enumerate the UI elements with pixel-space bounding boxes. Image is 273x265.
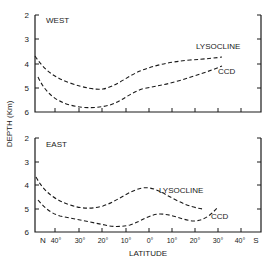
east-lysocline-label: LYSOCLINE	[159, 186, 203, 195]
east-ccd-curve	[38, 200, 218, 227]
ytick-3-east: 3	[25, 158, 30, 167]
west-lysocline-curve	[35, 56, 222, 89]
panel-west-frame	[35, 15, 261, 112]
xtick-20S: 20°	[190, 237, 201, 244]
ytick-5-west: 5	[25, 84, 30, 93]
panel-west-title: WEST	[46, 16, 69, 25]
ytick-4-east: 4	[25, 181, 30, 190]
panel-east-yticks	[35, 138, 261, 209]
xtick-10N: 10°	[121, 237, 132, 244]
ytick-2-east: 2	[25, 134, 30, 143]
figure: 2 3 4 5 6 WEST LYSOCLINE CCD DEPTH (Km)	[0, 0, 273, 265]
panel-west: 2 3 4 5 6 WEST LYSOCLINE CCD	[25, 11, 261, 117]
west-lysocline-label: LYSOCLINE	[196, 42, 240, 51]
x-axis-label: LATITUDE	[129, 249, 167, 258]
west-ccd-curve	[38, 66, 222, 108]
ytick-6-west: 6	[25, 108, 30, 117]
xtick-40S: 40°	[235, 237, 246, 244]
ytick-5-east: 5	[25, 205, 30, 214]
xtick-10S: 10°	[167, 237, 178, 244]
panel-east: 2 3 4 5 6 EAST LYSOCLINE CCD N 40° 30° 2…	[25, 134, 261, 258]
east-ccd-label: CCD	[211, 212, 229, 221]
xtick-40N: 40°	[51, 237, 62, 244]
ytick-2-west: 2	[25, 11, 30, 20]
ytick-6-east: 6	[25, 228, 30, 237]
xtick-30N: 30°	[75, 237, 86, 244]
xtick-0: 0°	[147, 237, 154, 244]
xtick-30S: 30°	[213, 237, 224, 244]
panel-east-title: EAST	[46, 140, 67, 149]
xtick-20N: 20°	[98, 237, 109, 244]
xtick-S: S	[253, 236, 258, 245]
west-ccd-label: CCD	[218, 67, 236, 76]
panel-west-yticks	[35, 15, 261, 88]
y-axis-label: DEPTH (Km)	[5, 100, 14, 147]
ytick-3-west: 3	[25, 35, 30, 44]
ytick-4-west: 4	[25, 60, 30, 69]
xtick-N: N	[40, 236, 46, 245]
